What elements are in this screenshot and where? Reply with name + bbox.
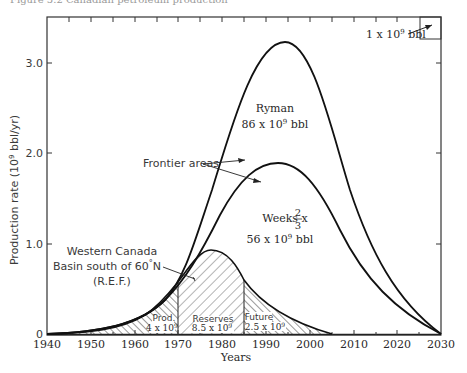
svg-text:1950: 1950 xyxy=(77,338,105,351)
svg-text:Ryman: Ryman xyxy=(256,102,294,115)
y-ticks xyxy=(47,63,441,244)
svg-text:Western Canada: Western Canada xyxy=(67,245,157,258)
svg-text:2030: 2030 xyxy=(427,338,455,351)
svg-text:1.0: 1.0 xyxy=(26,238,44,251)
y-tick-labels: 0 1.0 2.0 3.0 xyxy=(26,57,44,341)
svg-text:Weeks x: Weeks x xyxy=(262,212,308,225)
production-chart: 1 x 109 bbl Frontier areas Ryman 86 x 10… xyxy=(0,0,467,373)
svg-text:3.0: 3.0 xyxy=(26,57,44,70)
svg-text:1980: 1980 xyxy=(208,338,236,351)
svg-text:4 x 109: 4 x 109 xyxy=(146,322,178,333)
weeks-label: Weeks x 2 3 56 x 109 bbl xyxy=(247,207,314,246)
scale-box: 1 x 109 bbl xyxy=(366,17,441,41)
frontier-annotation: Frontier areas xyxy=(143,157,261,183)
svg-text:8.5 x 109: 8.5 x 109 xyxy=(192,322,233,333)
svg-text:1 x 109 bbl: 1 x 109 bbl xyxy=(366,28,426,41)
svg-text:Basin south of 60°N: Basin south of 60°N xyxy=(53,259,161,273)
reserves-region-label: Reserves 8.5 x 109 xyxy=(192,314,234,333)
svg-text:3: 3 xyxy=(295,220,301,231)
wcsb-label: Western Canada Basin south of 60°N (R.E.… xyxy=(53,245,195,288)
svg-text:1990: 1990 xyxy=(252,338,280,351)
frontier-label: Frontier areas xyxy=(143,157,219,170)
svg-text:2010: 2010 xyxy=(340,338,368,351)
svg-text:56 x 109 bbl: 56 x 109 bbl xyxy=(247,233,314,246)
svg-text:2.0: 2.0 xyxy=(26,147,44,160)
svg-text:2000: 2000 xyxy=(296,338,324,351)
ryman-label: Ryman 86 x 109 bbl xyxy=(242,102,309,131)
svg-text:(R.E.F.): (R.E.F.) xyxy=(93,275,131,288)
svg-text:1970: 1970 xyxy=(164,338,192,351)
x-tick-labels: 1940 1950 1960 1970 1980 1990 2000 2010 … xyxy=(33,338,455,351)
x-axis-title: Years xyxy=(220,351,252,364)
y-axis-title: Production rate (109 bbl/yr) xyxy=(8,115,21,265)
svg-text:2020: 2020 xyxy=(383,338,411,351)
svg-text:2: 2 xyxy=(295,207,301,218)
svg-text:Prod.: Prod. xyxy=(153,313,176,323)
svg-text:1960: 1960 xyxy=(121,338,149,351)
svg-text:0: 0 xyxy=(36,328,43,341)
svg-text:Future: Future xyxy=(245,312,274,322)
svg-text:86 x 109 bbl: 86 x 109 bbl xyxy=(242,118,309,131)
svg-text:2.5 x 109: 2.5 x 109 xyxy=(245,321,286,332)
